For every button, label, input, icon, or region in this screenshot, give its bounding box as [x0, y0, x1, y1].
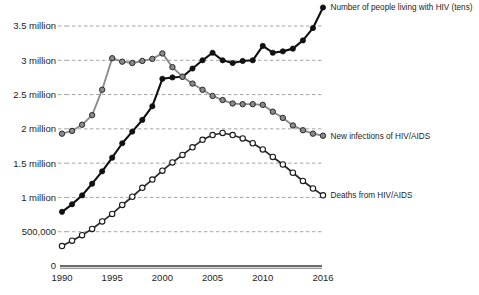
data-point	[59, 131, 64, 136]
series-label: Deaths from HIV/AIDS	[331, 191, 413, 200]
x-tick-label-1995: 1995	[102, 272, 123, 283]
x-tick-label-2010: 2010	[252, 272, 273, 283]
data-point	[170, 160, 175, 165]
data-point	[280, 115, 285, 120]
data-point	[260, 102, 265, 107]
line-chart: 0500,0001 million1.5 million2 million2.5…	[0, 0, 479, 295]
data-point	[300, 38, 305, 43]
x-tick-label-2016: 2016	[312, 272, 333, 283]
data-point	[210, 50, 215, 55]
data-point	[89, 226, 94, 231]
data-point	[320, 133, 325, 138]
data-point	[290, 123, 295, 128]
data-point	[290, 170, 295, 175]
series-label: Number of people living with HIV (tens)	[331, 3, 473, 12]
data-point	[150, 177, 155, 182]
data-point	[190, 145, 195, 150]
data-point	[280, 162, 285, 167]
data-point	[280, 49, 285, 54]
data-point	[230, 132, 235, 137]
data-point	[99, 87, 104, 92]
data-point	[220, 130, 225, 135]
data-point	[260, 147, 265, 152]
data-series-group	[59, 5, 325, 249]
data-point	[79, 232, 84, 237]
y-axis-tick-labels: 0500,0001 million1.5 million2 million2.5…	[13, 20, 56, 271]
data-point	[160, 51, 165, 56]
y-tick-label-0: 0	[51, 260, 56, 271]
chart-container: 0500,0001 million1.5 million2 million2.5…	[0, 0, 479, 295]
data-point	[240, 58, 245, 63]
data-point	[180, 152, 185, 157]
data-point	[220, 97, 225, 102]
data-point	[320, 193, 325, 198]
data-point	[230, 60, 235, 65]
data-point	[190, 66, 195, 71]
data-point	[150, 56, 155, 61]
data-point	[69, 238, 74, 243]
data-point	[130, 129, 135, 134]
data-point	[130, 60, 135, 65]
y-tick-label-3500000: 3.5 million	[13, 20, 56, 31]
data-point	[170, 64, 175, 69]
data-point	[109, 56, 114, 61]
y-tick-label-1000000: 1 million	[21, 192, 56, 203]
data-point	[59, 209, 64, 214]
data-point	[250, 101, 255, 106]
data-point	[109, 211, 114, 216]
series-2	[59, 130, 325, 249]
data-point	[140, 58, 145, 63]
data-point	[210, 93, 215, 98]
data-point	[270, 154, 275, 159]
data-point	[69, 128, 74, 133]
data-point	[240, 101, 245, 106]
data-point	[160, 76, 165, 81]
y-tick-label-2000000: 2 million	[21, 123, 56, 134]
data-point	[270, 50, 275, 55]
y-tick-label-3000000: 3 million	[21, 55, 56, 66]
y-tick-label-1500000: 1.5 million	[13, 158, 56, 169]
data-point	[200, 137, 205, 142]
data-point	[79, 193, 84, 198]
x-axis-tick-labels: 199019952000200520102016	[51, 272, 333, 283]
data-point	[210, 132, 215, 137]
data-point	[310, 186, 315, 191]
data-point	[190, 81, 195, 86]
data-point	[160, 168, 165, 173]
data-point	[250, 141, 255, 146]
x-tick-label-2000: 2000	[152, 272, 173, 283]
data-point	[200, 58, 205, 63]
data-point	[300, 128, 305, 133]
data-point	[90, 181, 95, 186]
series-labels-group: Number of people living with HIV (tens)N…	[331, 3, 473, 200]
data-point	[240, 136, 245, 141]
data-point	[230, 101, 235, 106]
data-point	[250, 58, 255, 63]
data-point	[290, 46, 295, 51]
data-point	[170, 75, 175, 80]
data-point	[69, 202, 74, 207]
y-tick-label-500000: 500,000	[22, 226, 56, 237]
data-point	[260, 43, 265, 48]
data-point	[270, 109, 275, 114]
data-point	[200, 87, 205, 92]
gridlines-group	[58, 26, 322, 232]
data-point	[150, 104, 155, 109]
data-point	[180, 74, 185, 79]
data-point	[120, 141, 125, 146]
data-point	[79, 122, 84, 127]
data-point	[220, 58, 225, 63]
data-point	[89, 112, 94, 117]
data-point	[320, 5, 325, 10]
data-point	[100, 169, 105, 174]
data-point	[120, 202, 125, 207]
x-tick-label-2005: 2005	[202, 272, 223, 283]
data-point	[310, 131, 315, 136]
data-point	[310, 25, 315, 30]
data-point	[59, 243, 64, 248]
data-point	[300, 178, 305, 183]
series-label: New infections of HIV/AIDS	[331, 132, 431, 141]
axes-group	[60, 266, 322, 268]
data-point	[140, 117, 145, 122]
series-0	[59, 5, 325, 215]
